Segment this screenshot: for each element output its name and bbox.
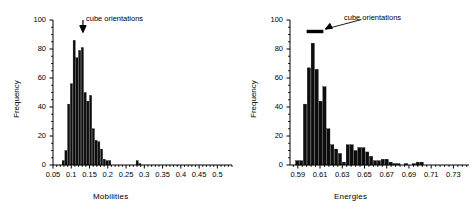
panel-mobilities: Frequency Mobilities cube orientations 0… bbox=[0, 0, 237, 211]
histogram-bar bbox=[106, 161, 108, 165]
histogram-bar bbox=[79, 50, 81, 165]
histogram-bar bbox=[354, 151, 357, 166]
histogram-bar bbox=[377, 161, 380, 165]
histogram-bar bbox=[92, 129, 94, 165]
histogram-bar bbox=[95, 140, 97, 165]
histogram-bar bbox=[331, 145, 334, 165]
histogram-bar bbox=[136, 161, 138, 165]
histogram-bar bbox=[327, 129, 330, 165]
y-tick-label: 80 bbox=[256, 44, 283, 53]
histogram-bar bbox=[366, 152, 369, 165]
histogram-bar bbox=[70, 84, 72, 165]
y-tick-label: 20 bbox=[256, 131, 283, 140]
y-tick-label: 0 bbox=[19, 160, 46, 169]
histogram-bar bbox=[373, 161, 376, 165]
histogram-bar bbox=[296, 161, 299, 165]
range-bar-marker bbox=[307, 30, 324, 33]
figure-two-histograms: Frequency Mobilities cube orientations 0… bbox=[0, 0, 474, 211]
x-tick-label: 0.73 bbox=[439, 170, 467, 179]
histogram-bar bbox=[381, 159, 384, 165]
histogram-bar bbox=[311, 43, 314, 165]
arrow-head-icon bbox=[325, 23, 332, 29]
y-tick-label: 40 bbox=[19, 102, 46, 111]
histogram-bar bbox=[81, 48, 83, 165]
x-axis-ticks bbox=[293, 165, 466, 169]
y-tick-label: 100 bbox=[19, 15, 46, 24]
x-axis-label-energies: Energies bbox=[334, 192, 367, 201]
bars-group bbox=[62, 40, 141, 165]
y-tick-label: 60 bbox=[19, 73, 46, 82]
histogram-bar bbox=[338, 153, 341, 165]
histogram-bar bbox=[109, 161, 111, 165]
x-axis-ticks bbox=[53, 165, 232, 169]
histogram-bar bbox=[315, 69, 318, 165]
histogram-bar bbox=[100, 149, 102, 165]
histogram-bar bbox=[299, 161, 302, 165]
y-tick-label: 100 bbox=[256, 15, 283, 24]
annotation-cube-orientations-mobilities: cube orientations bbox=[86, 14, 143, 23]
histogram-bar bbox=[76, 58, 78, 165]
histogram-bar bbox=[369, 156, 372, 165]
y-tick-label: 40 bbox=[256, 102, 283, 111]
histogram-bar bbox=[103, 159, 105, 165]
x-axis-label-mobilities: Mobilities bbox=[93, 192, 128, 201]
histogram-bar bbox=[346, 145, 349, 165]
y-tick-label: 0 bbox=[256, 160, 283, 169]
histogram-bar bbox=[350, 145, 353, 165]
histogram-bar bbox=[319, 101, 322, 165]
down-arrow-icon bbox=[80, 26, 86, 33]
histogram-bar bbox=[303, 104, 306, 165]
histogram-bar bbox=[62, 161, 64, 165]
annotation-cube-orientations-energies: cube orientations bbox=[344, 13, 401, 22]
histogram-bar bbox=[90, 95, 92, 165]
panel-energies: Frequency Energies cube orientations 0.5… bbox=[237, 0, 474, 211]
bars-group bbox=[296, 43, 424, 165]
histogram-bar bbox=[307, 68, 310, 165]
histogram-bar bbox=[334, 149, 337, 165]
histogram-bar bbox=[385, 159, 388, 165]
y-tick-label: 60 bbox=[256, 73, 283, 82]
histogram-bar bbox=[358, 148, 361, 165]
histogram-bar bbox=[68, 104, 70, 165]
histogram-bar bbox=[323, 87, 326, 165]
y-axis-ticks bbox=[50, 20, 54, 165]
y-axis-label-energies: Frequency bbox=[249, 80, 258, 118]
y-tick-label: 20 bbox=[19, 131, 46, 140]
x-tick-label: 0.5 bbox=[203, 170, 231, 179]
y-axis-label-mobilities: Frequency bbox=[12, 80, 21, 118]
histogram-bar bbox=[98, 142, 100, 165]
histogram-bar bbox=[362, 148, 365, 165]
histogram-bar bbox=[87, 101, 89, 165]
histogram-bar bbox=[65, 151, 67, 166]
histogram-bar bbox=[73, 40, 75, 165]
histogram-bar bbox=[84, 93, 86, 166]
y-axis-ticks bbox=[287, 20, 291, 165]
y-tick-label: 80 bbox=[19, 44, 46, 53]
